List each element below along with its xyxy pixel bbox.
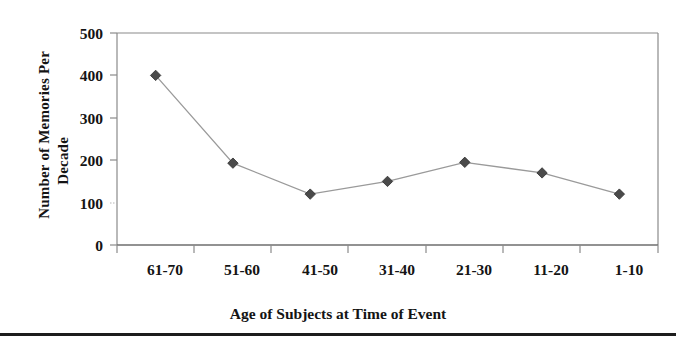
x-tick-label-3: 31-40 bbox=[357, 262, 437, 278]
x-tick-label-6: 1-10 bbox=[589, 262, 669, 278]
page-bottom-rule bbox=[0, 333, 676, 336]
data-point-21-30 bbox=[460, 157, 470, 167]
x-tick-label-5: 11-20 bbox=[511, 262, 591, 278]
data-point-41-50 bbox=[305, 189, 315, 199]
x-tick-marks bbox=[117, 245, 658, 253]
x-tick-label-0: 61-70 bbox=[125, 262, 205, 278]
y-tick-marks bbox=[110, 33, 117, 245]
data-point-31-40 bbox=[382, 176, 392, 186]
series-markers bbox=[150, 70, 624, 199]
plot-area bbox=[0, 0, 676, 343]
x-tick-label-1: 51-60 bbox=[202, 262, 282, 278]
data-point-11-20 bbox=[537, 168, 547, 178]
chart-figure: Number of Memories Per Decade 500 400 30… bbox=[0, 0, 676, 343]
x-axis-title: Age of Subjects at Time of Event bbox=[0, 305, 676, 323]
x-tick-label-2: 41-50 bbox=[280, 262, 360, 278]
axis-lines bbox=[117, 33, 658, 245]
data-point-1-10 bbox=[614, 189, 624, 199]
x-tick-label-4: 21-30 bbox=[434, 262, 514, 278]
